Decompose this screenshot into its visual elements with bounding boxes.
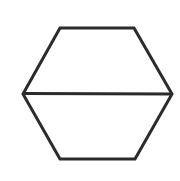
hexagon-diagram (0, 0, 180, 181)
diagram-canvas: Hexagon divided by a horizontal line int… (0, 0, 180, 181)
horizontal-divider-line (23, 94, 172, 95)
